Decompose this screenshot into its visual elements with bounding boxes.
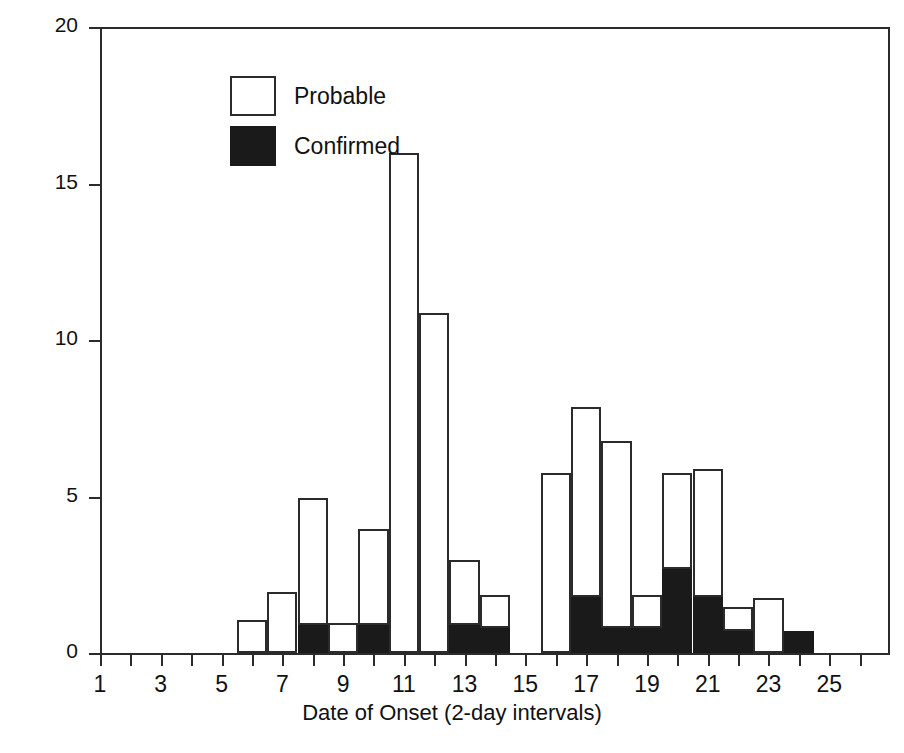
- bar-segment-confirmed: [480, 628, 510, 653]
- bar-segment-confirmed: [358, 625, 388, 653]
- bar-stack: [298, 500, 328, 653]
- x-tick-mark: [282, 655, 284, 666]
- bar-stack: [237, 622, 267, 653]
- legend-swatch-filled: [230, 126, 276, 166]
- bar-stack: [601, 443, 631, 653]
- bar-stack: [358, 531, 388, 653]
- bar-segment-probable: [237, 620, 267, 653]
- x-tick-label: 25: [806, 671, 852, 698]
- x-tick-label: 17: [563, 671, 609, 698]
- legend: ProbableConfirmed: [230, 74, 400, 174]
- x-tick-mark: [799, 655, 801, 666]
- x-tick-mark: [677, 655, 679, 666]
- bar-stack: [662, 475, 692, 653]
- bar-segment-probable: [358, 529, 388, 625]
- bar-segment-probable: [601, 441, 631, 628]
- x-tick-mark: [860, 655, 862, 666]
- y-tick-mark: [89, 27, 100, 29]
- bar-stack: [753, 600, 783, 653]
- bar-segment-confirmed: [784, 631, 814, 653]
- y-tick-mark: [89, 184, 100, 186]
- bar-stack: [328, 625, 358, 653]
- bar-segment-probable: [571, 407, 601, 597]
- legend-label: Probable: [294, 83, 386, 110]
- bar-segment-probable: [449, 560, 479, 625]
- bar-segment-probable: [693, 469, 723, 596]
- x-tick-mark: [161, 655, 163, 666]
- legend-item: Confirmed: [230, 124, 400, 168]
- bar-segment-confirmed: [571, 597, 601, 653]
- bar-segment-probable: [328, 623, 358, 653]
- y-tick-label: 15: [0, 170, 78, 194]
- x-tick-label: 1: [77, 671, 123, 698]
- x-tick-mark: [708, 655, 710, 666]
- y-tick-label: 0: [0, 639, 78, 663]
- legend-swatch-hollow: [230, 76, 276, 116]
- legend-label: Confirmed: [294, 133, 400, 160]
- plot-frame-top: [100, 27, 890, 29]
- bar-segment-probable: [753, 598, 783, 653]
- x-tick-mark: [586, 655, 588, 666]
- bar-stack: [784, 631, 814, 653]
- x-tick-label: 3: [138, 671, 184, 698]
- plot-frame-right: [888, 27, 890, 655]
- bar-stack: [480, 597, 510, 653]
- x-axis-title: Date of Onset (2-day intervals): [0, 700, 904, 726]
- y-tick-mark: [89, 653, 100, 655]
- bar-segment-probable: [298, 498, 328, 625]
- bar-segment-probable: [662, 473, 692, 569]
- x-tick-label: 23: [745, 671, 791, 698]
- x-tick-mark: [556, 655, 558, 666]
- x-tick-mark: [829, 655, 831, 666]
- bar-stack: [693, 471, 723, 653]
- y-tick-mark: [89, 497, 100, 499]
- bar-segment-confirmed: [693, 597, 723, 653]
- bar-stack: [541, 475, 571, 653]
- bar-segment-probable: [632, 595, 662, 628]
- bar-segment-confirmed: [662, 569, 692, 654]
- bar-segment-confirmed: [632, 628, 662, 653]
- x-tick-label: 9: [320, 671, 366, 698]
- legend-item: Probable: [230, 74, 400, 118]
- x-tick-mark: [495, 655, 497, 666]
- bar-stack: [723, 609, 753, 653]
- x-tick-mark: [647, 655, 649, 666]
- bar-stack: [571, 409, 601, 653]
- bar-segment-probable: [541, 473, 571, 653]
- x-tick-mark: [404, 655, 406, 666]
- x-tick-label: 5: [199, 671, 245, 698]
- y-tick-label: 5: [0, 483, 78, 507]
- bar-segment-probable: [419, 313, 449, 653]
- y-axis-line: [100, 27, 102, 655]
- x-tick-mark: [373, 655, 375, 666]
- x-tick-mark: [252, 655, 254, 666]
- x-tick-label: 19: [624, 671, 670, 698]
- x-tick-mark: [525, 655, 527, 666]
- bar-stack: [449, 562, 479, 653]
- plot-area: 135791113151719212325 ProbableConfirmed: [100, 27, 890, 655]
- x-tick-label: 21: [685, 671, 731, 698]
- bar-stack: [419, 315, 449, 653]
- y-tick-mark: [89, 340, 100, 342]
- x-tick-label: 11: [381, 671, 427, 698]
- bar-segment-probable: [723, 607, 753, 631]
- x-tick-label: 7: [259, 671, 305, 698]
- x-tick-mark: [222, 655, 224, 666]
- bar-segment-probable: [389, 153, 419, 653]
- bar-segment-confirmed: [723, 631, 753, 653]
- chart-figure: 135791113151719212325 ProbableConfirmed …: [0, 0, 904, 753]
- bar-segment-confirmed: [298, 625, 328, 653]
- x-tick-mark: [343, 655, 345, 666]
- x-tick-mark: [100, 655, 102, 666]
- x-tick-mark: [191, 655, 193, 666]
- bar-segment-probable: [480, 595, 510, 628]
- y-tick-label: 10: [0, 326, 78, 350]
- x-tick-mark: [313, 655, 315, 666]
- x-tick-mark: [738, 655, 740, 666]
- bar-segment-confirmed: [601, 628, 631, 653]
- x-tick-label: 15: [502, 671, 548, 698]
- x-tick-mark: [130, 655, 132, 666]
- y-tick-label: 20: [0, 13, 78, 37]
- bar-segment-confirmed: [449, 625, 479, 653]
- x-tick-mark: [768, 655, 770, 666]
